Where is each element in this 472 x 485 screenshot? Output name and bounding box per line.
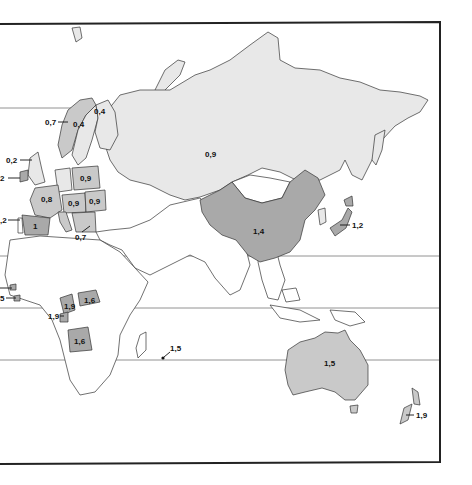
label-uk: 0,2 bbox=[6, 156, 18, 165]
country-uk bbox=[28, 152, 45, 185]
label-spain: 1 bbox=[33, 222, 38, 231]
label-poland: 0,9 bbox=[80, 174, 92, 183]
label-australia: 1,5 bbox=[324, 359, 336, 368]
label-finland: 0,4 bbox=[94, 107, 106, 116]
label-norway: 0,7 bbox=[45, 118, 57, 127]
world-map: 0,9 1,4 1,2 0,4 0,4 0,7 0,2 2 0,9 0,8 0,… bbox=[0, 0, 472, 485]
country-new-zealand-north bbox=[412, 388, 420, 405]
label-russia: 0,9 bbox=[205, 150, 217, 159]
island-madagascar bbox=[136, 332, 146, 358]
island-indonesia bbox=[270, 305, 320, 322]
island-hokkaido bbox=[344, 196, 353, 206]
country-ireland bbox=[20, 170, 28, 182]
label-mauritius: 1,5 bbox=[170, 344, 182, 353]
continent-africa bbox=[5, 236, 148, 395]
island-new-guinea bbox=[330, 310, 365, 326]
label-china: 1,4 bbox=[253, 227, 265, 236]
label-romania: 0,9 bbox=[89, 197, 101, 206]
country-russia bbox=[100, 32, 428, 200]
country-new-zealand-south bbox=[400, 404, 412, 424]
country-gabon bbox=[60, 312, 68, 322]
svalbard bbox=[72, 27, 82, 42]
label-angola: 1,6 bbox=[74, 337, 86, 346]
label-sweden: 0,4 bbox=[73, 120, 85, 129]
label-greece: 0,7 bbox=[75, 233, 87, 242]
country-balkans bbox=[72, 212, 96, 232]
label-japan: 1,2 bbox=[352, 221, 364, 230]
label-sierra-leone: 5 bbox=[0, 294, 5, 303]
label-gabon: 1,9 bbox=[48, 312, 60, 321]
island-borneo bbox=[282, 288, 300, 302]
country-korea bbox=[318, 208, 326, 225]
country-japan bbox=[330, 208, 352, 236]
country-italy bbox=[58, 212, 72, 232]
label-cameroon: 1,9 bbox=[64, 302, 76, 311]
label-ireland: 2 bbox=[0, 174, 5, 183]
label-hungary: 0,9 bbox=[68, 199, 80, 208]
label-france: 0,8 bbox=[41, 195, 53, 204]
label-new-zealand: 1,9 bbox=[416, 411, 428, 420]
island-tasmania bbox=[350, 405, 358, 413]
label-central-african-rep: 1,6 bbox=[84, 296, 96, 305]
label-portugal: ,2 bbox=[0, 216, 7, 225]
country-senegal bbox=[10, 284, 16, 290]
